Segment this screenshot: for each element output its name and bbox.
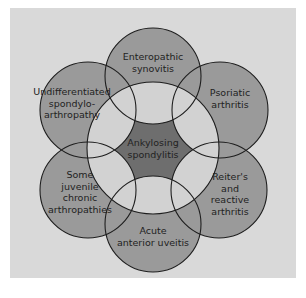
label-acute-anterior-uveitis: Acute anterior uveitis: [117, 225, 189, 248]
label-enteropathic-synovitis: Enteropathic synovitis: [123, 51, 184, 74]
label-reiters-reactive-arthritis: Reiter's and reactive arthritis: [211, 171, 249, 217]
label-psoriatic-arthritis: Psoriatic arthritis: [210, 87, 250, 110]
label-undifferentiated-spondyloarthropathy: Undifferentiated spondylo- arthropathy: [33, 86, 110, 121]
label-ankylosing-spondylitis: Ankylosing spondylitis: [127, 137, 178, 160]
label-juvenile-chronic-arthropathies: Some juvenile chronic arthropathies: [48, 169, 112, 215]
